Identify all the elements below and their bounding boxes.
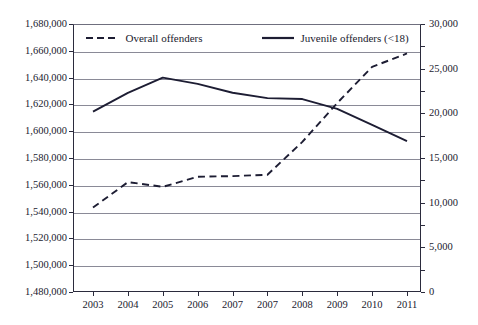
category-axis-tick bbox=[128, 292, 129, 296]
right-axis-tick-label: 0 bbox=[429, 286, 434, 297]
right-axis-tick bbox=[421, 158, 425, 159]
category-axis-tick-label: 2011 bbox=[385, 299, 429, 310]
dashed-line-swatch-icon bbox=[85, 33, 119, 43]
left-axis-tick-label: 1,680,000 bbox=[1, 18, 67, 29]
left-axis-tick-label: 1,580,000 bbox=[1, 152, 67, 163]
right-axis-tick bbox=[421, 225, 425, 226]
right-axis-tick bbox=[421, 24, 425, 25]
right-axis-tick bbox=[421, 292, 425, 293]
left-axis-tick-label: 1,500,000 bbox=[1, 259, 67, 270]
solid-line-swatch-icon bbox=[261, 33, 295, 43]
right-axis-tick bbox=[421, 91, 425, 92]
category-axis-tick bbox=[267, 292, 268, 296]
left-axis-tick-label: 1,560,000 bbox=[1, 179, 67, 190]
left-axis-tick-label: 1,480,000 bbox=[1, 286, 67, 297]
right-axis-tick bbox=[421, 113, 425, 114]
right-axis-tick-label: 25,000 bbox=[429, 63, 458, 74]
legend-label-overall-offenders: Overall offenders bbox=[125, 32, 202, 44]
series-layer bbox=[73, 24, 421, 292]
right-axis-tick-label: 20,000 bbox=[429, 107, 458, 118]
category-axis-tick bbox=[337, 292, 338, 296]
right-axis-tick bbox=[421, 69, 425, 70]
category-axis-tick bbox=[302, 292, 303, 296]
right-axis-tick-label: 10,000 bbox=[429, 197, 458, 208]
category-axis-tick bbox=[407, 292, 408, 296]
left-axis-tick-label: 1,640,000 bbox=[1, 72, 67, 83]
left-axis-tick-label: 1,660,000 bbox=[1, 45, 67, 56]
chart-legend: Overall offenders Juvenile offenders (<1… bbox=[74, 25, 420, 51]
right-axis-tick-label: 30,000 bbox=[429, 18, 458, 29]
left-axis-tick-label: 1,540,000 bbox=[1, 206, 67, 217]
right-axis-tick bbox=[421, 180, 425, 181]
category-axis-tick bbox=[198, 292, 199, 296]
left-axis-tick-label: 1,520,000 bbox=[1, 232, 67, 243]
category-axis-tick bbox=[93, 292, 94, 296]
category-axis-tick bbox=[233, 292, 234, 296]
category-axis-tick bbox=[372, 292, 373, 296]
right-axis-tick bbox=[421, 247, 425, 248]
left-axis-tick-label: 1,600,000 bbox=[1, 125, 67, 136]
legend-item-overall-offenders: Overall offenders bbox=[85, 32, 202, 44]
legend-item-juvenile-offenders: Juvenile offenders (<18) bbox=[261, 32, 409, 44]
series-line-overall-offenders bbox=[93, 53, 407, 207]
right-axis-tick-label: 5,000 bbox=[429, 241, 453, 252]
left-axis-tick bbox=[69, 292, 73, 293]
category-axis-tick bbox=[163, 292, 164, 296]
legend-label-juvenile-offenders: Juvenile offenders (<18) bbox=[301, 32, 409, 44]
right-axis-tick bbox=[421, 136, 425, 137]
line-chart: 1,680,0001,660,0001,640,0001,620,0001,60… bbox=[0, 0, 478, 325]
left-axis-tick-label: 1,620,000 bbox=[1, 98, 67, 109]
series-line-juvenile-offenders-18 bbox=[93, 78, 407, 141]
right-axis-tick bbox=[421, 46, 425, 47]
right-axis-tick bbox=[421, 270, 425, 271]
right-axis-tick-label: 15,000 bbox=[429, 152, 458, 163]
right-axis-tick bbox=[421, 203, 425, 204]
